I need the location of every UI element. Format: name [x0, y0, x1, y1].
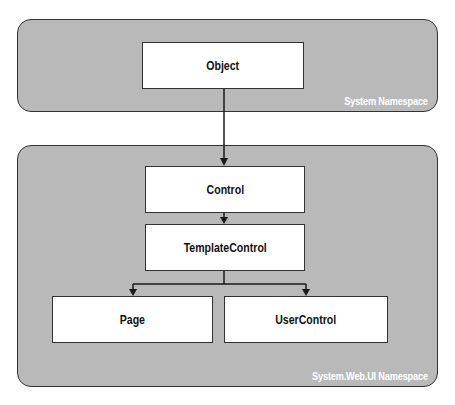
- node-object-label: Object: [207, 59, 240, 73]
- node-usercontrol-label: UserControl: [275, 313, 336, 327]
- system-web-ui-namespace-label: System.Web.UI Namespace: [312, 371, 428, 382]
- node-usercontrol: UserControl: [224, 296, 388, 343]
- node-control-label: Control: [206, 183, 244, 197]
- node-object: Object: [142, 42, 304, 89]
- node-templatecontrol-label: TemplateControl: [183, 241, 266, 255]
- node-templatecontrol: TemplateControl: [145, 224, 305, 271]
- system-namespace-label: System Namespace: [345, 96, 428, 107]
- node-page-label: Page: [120, 313, 145, 327]
- node-page: Page: [52, 296, 213, 343]
- node-control: Control: [145, 166, 305, 213]
